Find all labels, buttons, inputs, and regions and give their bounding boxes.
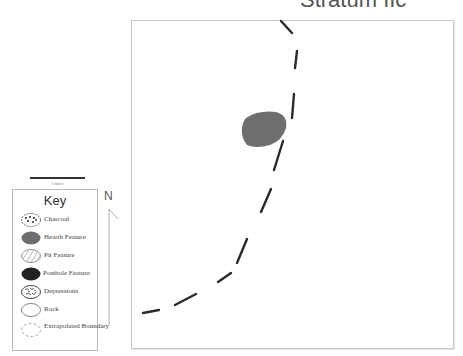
legend-item-charcoal: Charcoal bbox=[13, 212, 97, 230]
legend-label: Depressions bbox=[44, 287, 78, 295]
pit-icon bbox=[20, 248, 42, 264]
legend-item-pit: Pit Feature bbox=[13, 248, 97, 266]
legend-item-posthole: Posthole Feature bbox=[13, 266, 97, 284]
posthole-icon bbox=[20, 266, 42, 282]
scale-bar bbox=[30, 177, 85, 179]
legend-item-hearth: Hearth Feature bbox=[13, 230, 97, 248]
charcoal-icon bbox=[20, 212, 42, 228]
hearth-icon bbox=[20, 230, 42, 246]
extrapolated-boundary-icon bbox=[20, 322, 42, 338]
legend-item-extrapolated-boundary: Extrapolated Boundary bbox=[13, 322, 97, 340]
legend-box: Key Charcoal Hearth Feature Pit Feature bbox=[12, 189, 98, 351]
rock-icon bbox=[20, 302, 42, 318]
legend-label: Extrapolated Boundary bbox=[44, 321, 94, 331]
legend-label: Pit Feature bbox=[44, 251, 75, 259]
north-arrow-icon bbox=[104, 207, 124, 327]
legend-label: Hearth Feature bbox=[44, 233, 86, 241]
legend-label: Charcoal bbox=[44, 215, 69, 223]
legend-label: Rock bbox=[44, 305, 59, 313]
legend-item-depressions: Depressions bbox=[13, 284, 97, 302]
legend-label: Posthole Feature bbox=[43, 269, 90, 277]
north-label: N bbox=[104, 189, 113, 203]
legend-item-rock: Rock bbox=[13, 302, 97, 320]
legend-title: Key bbox=[13, 193, 97, 208]
extrapolated-boundary bbox=[143, 21, 297, 313]
hearth-feature bbox=[242, 112, 286, 147]
depressions-icon bbox=[20, 284, 42, 300]
scale-label: 1 meter bbox=[30, 181, 85, 186]
